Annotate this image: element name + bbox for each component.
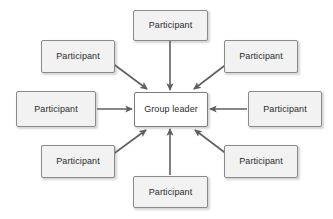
node-label-participant-top: Participant (149, 21, 193, 30)
node-label-group-leader: Group leader (144, 105, 198, 114)
diagram-canvas: Group leader Participant Participant Par… (0, 0, 333, 219)
node-participant-top-right[interactable]: Participant (224, 40, 298, 73)
node-label-participant-top-left: Participant (56, 52, 100, 61)
node-label-participant-left: Participant (34, 105, 78, 114)
node-participant-bottom-left[interactable]: Participant (41, 145, 115, 178)
node-participant-bottom-right[interactable]: Participant (224, 145, 298, 178)
node-label-participant-bottom-right: Participant (239, 157, 283, 166)
edge-bottom-left-to-center (112, 130, 146, 155)
edge-top-left-to-center (112, 63, 147, 89)
node-participant-top[interactable]: Participant (133, 10, 208, 41)
edge-top-right-to-center (194, 63, 228, 89)
node-label-participant-bottom-left: Participant (56, 157, 100, 166)
node-label-participant-bottom: Participant (149, 188, 193, 197)
node-label-participant-top-right: Participant (239, 52, 283, 61)
node-group-leader[interactable]: Group leader (134, 92, 208, 127)
node-label-participant-right: Participant (263, 105, 307, 114)
node-participant-top-left[interactable]: Participant (41, 40, 115, 73)
node-participant-right[interactable]: Participant (248, 91, 322, 127)
node-participant-bottom[interactable]: Participant (133, 176, 208, 208)
node-participant-left[interactable]: Participant (16, 91, 96, 127)
